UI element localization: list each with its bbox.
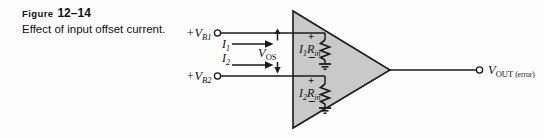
label-vb2-plus: +V	[186, 69, 203, 83]
input-terminal-vb1	[214, 30, 220, 36]
label-vout: VOUT(error)	[488, 63, 535, 79]
label-vout-qualifier: (error)	[515, 70, 535, 79]
label-i1-subscript: 1	[226, 44, 230, 53]
label-vb1-subscript: B1	[202, 32, 211, 42]
label-i1-rin-r-sub: in	[314, 49, 320, 58]
opamp-triangle-body	[293, 11, 390, 128]
vos-lower-arrow-head	[274, 67, 280, 74]
label-vb2-subscript: B2	[202, 75, 212, 85]
circuit-diagram: +VB1 +VB2 I1 I2 VOS + − I1Rin + −	[0, 0, 544, 139]
label-i2-rin-r-sub: in	[314, 93, 320, 102]
current-arrow-i1-head	[265, 40, 274, 48]
label-vb1: +VB1	[186, 26, 212, 42]
current-arrow-i2-head	[265, 61, 274, 69]
output-terminal	[476, 67, 482, 73]
figure-page: Figure12–14 Effect of input offset curre…	[0, 0, 544, 139]
label-vb2: +VB2	[186, 69, 212, 85]
polarity-plus-top: +	[308, 30, 314, 42]
input-terminal-vb2	[214, 73, 220, 79]
vos-upper-arrow-head	[274, 29, 280, 35]
label-vos-subscript: OS	[266, 52, 277, 62]
label-i2: I2	[221, 51, 230, 67]
polarity-plus-bottom: +	[308, 74, 314, 86]
label-vb1-plus: +V	[186, 26, 203, 40]
label-vout-subscript: OUT	[496, 69, 514, 79]
label-i2-subscript: 2	[226, 58, 230, 67]
label-vos: VOS	[258, 46, 277, 62]
